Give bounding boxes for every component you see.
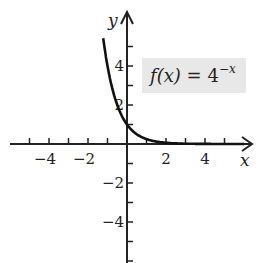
x-tick-label: −4 [34,150,56,168]
x-tick-label: 2 [161,150,171,168]
x-tick-label: 4 [200,150,210,168]
x-axis-label: x [240,150,250,170]
equation-lhs: f(x) [150,65,181,86]
equation-label: f(x) = 4−x [150,64,236,86]
equation-exponent: −x [219,62,236,76]
y-axis-label: y [107,10,118,30]
y-tick-label: 4 [114,57,124,75]
function-graph: −4−22442−2−4 y x [0,0,268,263]
x-tick-label: −2 [73,150,95,168]
equation-base: 4 [207,65,218,86]
y-tick-label: −2 [102,174,124,192]
y-tick-label: −4 [102,213,124,231]
equation-equals: = [187,65,202,86]
